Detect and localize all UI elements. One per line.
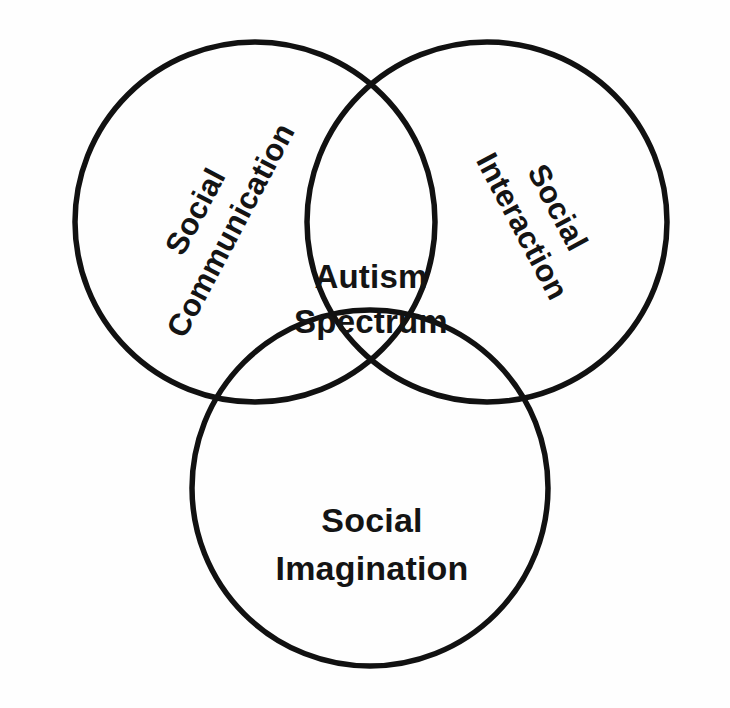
venn-diagram-canvas: Social Communication Social Interaction … (0, 0, 730, 708)
label-social-interaction: Social Interaction (469, 128, 611, 305)
circle-social-communication[interactable] (75, 42, 435, 402)
label-social-communication: Social Communication (124, 99, 301, 343)
label-social-imagination: Social Imagination (276, 501, 469, 587)
label-social-imagination-line2: Imagination (276, 549, 469, 587)
label-autism-spectrum-line2: Spectrum (294, 303, 448, 340)
venn-diagram: Social Communication Social Interaction … (0, 0, 730, 708)
circle-social-interaction[interactable] (307, 42, 667, 402)
label-autism-spectrum: Autism Spectrum (294, 258, 448, 340)
label-social-imagination-line1: Social (321, 501, 422, 539)
label-autism-spectrum-line1: Autism (314, 258, 427, 295)
